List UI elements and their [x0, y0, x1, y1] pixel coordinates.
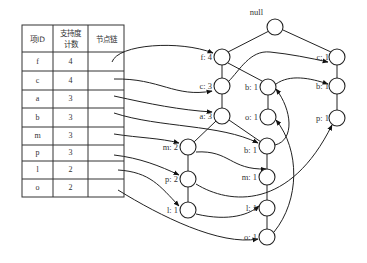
node-b1-upper: [260, 79, 276, 95]
node-o1-upper-label: o: 1: [245, 112, 258, 122]
node-c3-label: c: 3: [199, 81, 212, 91]
node-f4-label: f: 4: [200, 52, 212, 62]
node-root: [267, 19, 283, 35]
header-support-line2: 计数: [64, 39, 79, 49]
header-item-id: 项ID: [30, 35, 45, 44]
node-a3: [214, 108, 230, 124]
row-count: 3: [69, 131, 73, 140]
row-item: c: [36, 76, 40, 85]
row-item: m: [34, 131, 41, 140]
row-item: l: [36, 165, 39, 174]
header-node-link: 节点链: [96, 34, 118, 44]
node-b1-right: [329, 78, 345, 94]
node-o1-lower: [259, 229, 275, 245]
header-table: 项ID 支持度 计数 节点链 f 4 c 4 a 3 b 3 m 3 p 3 l…: [22, 25, 124, 197]
node-l1-left: [180, 202, 196, 218]
row-item: o: [36, 183, 40, 192]
row-count: 3: [69, 148, 73, 157]
node-o1-upper: [260, 109, 276, 125]
row-item: f: [36, 57, 39, 66]
node-b1-right-label: b: 1: [316, 81, 329, 91]
tree-nodes: null f: 4 c: 3 a: 3 m: 2 p: 2 l: 1 b: 1 …: [163, 7, 345, 245]
node-root-label: null: [250, 7, 264, 17]
row-count: 4: [69, 76, 73, 85]
row-item: p: [36, 148, 40, 157]
fp-tree-diagram: 项ID 支持度 计数 节点链 f 4 c 4 a 3 b 3 m 3 p 3 l…: [0, 0, 367, 263]
row-item: b: [36, 113, 40, 122]
node-p1: [329, 110, 345, 126]
node-p2: [180, 171, 196, 187]
node-c3: [214, 78, 230, 94]
node-l1-right: [259, 200, 275, 216]
node-c1-label: c: 1: [316, 52, 329, 62]
node-f4: [214, 49, 230, 65]
node-b1-lower-label: b: 1: [244, 145, 257, 155]
row-item: a: [36, 94, 40, 103]
row-count: 3: [69, 113, 73, 122]
node-m2-label: m: 2: [163, 142, 178, 152]
row-count: 3: [69, 94, 73, 103]
node-a3-label: a: 3: [199, 111, 212, 121]
row-count: 4: [69, 57, 73, 66]
header-support-line1: 支持度: [60, 28, 82, 38]
row-count: 2: [69, 165, 73, 174]
node-p2-label: p: 2: [165, 174, 178, 184]
node-c1: [329, 49, 345, 65]
node-b1-upper-label: b: 1: [245, 82, 258, 92]
node-o1-lower-label: o: 1: [244, 232, 257, 242]
row-count: 2: [69, 183, 73, 192]
node-m1-label: m: 1: [242, 172, 257, 182]
node-m2: [180, 139, 196, 155]
node-l1-right-label: l: 1: [246, 203, 257, 213]
node-l1-left-label: l: 1: [167, 205, 178, 215]
node-b1-lower: [259, 138, 275, 154]
node-m1: [259, 169, 275, 185]
node-p1-label: p: 1: [316, 113, 329, 123]
